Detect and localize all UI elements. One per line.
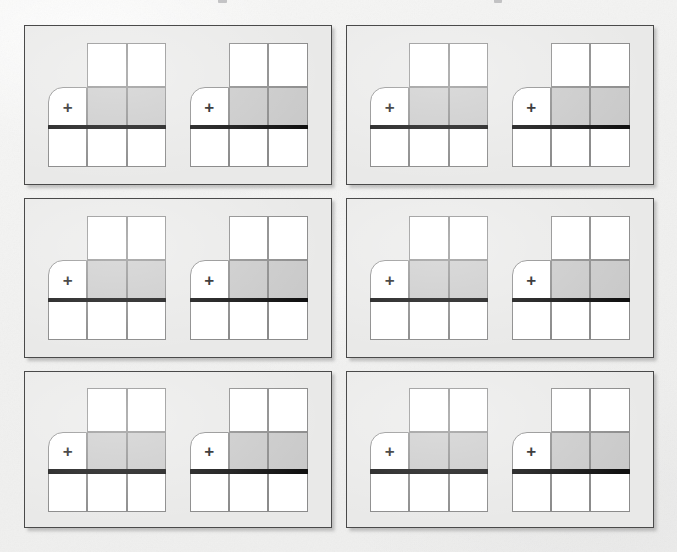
grid-cell-r3c1 xyxy=(512,472,551,512)
plus-icon: + xyxy=(63,98,73,115)
grid-cell-r3c1 xyxy=(190,472,229,512)
grid-cell-r3c2 xyxy=(409,127,449,167)
grid-cell-r2c2 xyxy=(87,260,127,300)
diagram-panel: ++ xyxy=(24,198,332,358)
grid-cell-r3c2 xyxy=(551,127,591,167)
grid-cell-r3c1 xyxy=(48,300,87,340)
baseline-rule xyxy=(370,125,488,130)
grid-cell-r1c2 xyxy=(409,216,449,260)
grid-cell-r2c3 xyxy=(590,87,630,127)
grid-cell-r3c1 xyxy=(190,300,229,340)
grid-cell-r2c2 xyxy=(409,260,449,300)
grid-cell-r3c1 xyxy=(190,127,229,167)
diagram-panel: ++ xyxy=(346,371,654,528)
grid-cell-r1c3 xyxy=(127,216,167,260)
grid-cell-r2c2 xyxy=(229,260,269,300)
grid-cell-r2c3 xyxy=(268,87,308,127)
plus-icon: + xyxy=(204,271,214,288)
grid-cell-r2c2 xyxy=(229,432,269,472)
grid-cell-r2c1: + xyxy=(48,260,87,300)
grid-cell-r2c1: + xyxy=(190,87,229,127)
plus-icon: + xyxy=(204,98,214,115)
grid-cell-r1c2 xyxy=(229,216,269,260)
plus-icon: + xyxy=(204,443,214,460)
plus-icon: + xyxy=(63,271,73,288)
grid-cell-r1c2 xyxy=(229,43,269,87)
grid-cell-r3c3 xyxy=(590,127,630,167)
plus-icon: + xyxy=(526,443,536,460)
baseline-rule xyxy=(190,125,308,130)
baseline-rule xyxy=(190,469,308,474)
grid-cell-r1c2 xyxy=(87,216,127,260)
grid-cell-r2c3 xyxy=(449,260,489,300)
grid-cell-r1c2 xyxy=(551,43,591,87)
grid-cell-r2c3 xyxy=(127,87,167,127)
baseline-rule xyxy=(48,125,166,130)
grid-cell-r2c2 xyxy=(551,87,591,127)
grid-diagram: + xyxy=(512,388,630,512)
grid-cell-r2c1: + xyxy=(48,432,87,472)
grid-cell-r1c3 xyxy=(449,216,489,260)
grid-cell-r2c2 xyxy=(551,260,591,300)
grid-cell-r2c3 xyxy=(449,432,489,472)
grid-cell-r2c1: + xyxy=(370,432,409,472)
plus-icon: + xyxy=(385,271,395,288)
grid-diagram: + xyxy=(190,216,308,340)
grid-cell-r3c3 xyxy=(590,300,630,340)
grid-cell-r2c2 xyxy=(409,432,449,472)
grid-cell-r3c3 xyxy=(127,127,167,167)
grid-cell-r2c1: + xyxy=(512,260,551,300)
grid-cell-r3c2 xyxy=(229,300,269,340)
grid-diagram: + xyxy=(48,388,166,512)
grid-diagram: + xyxy=(190,43,308,167)
grid-cell-r2c1: + xyxy=(512,87,551,127)
grid-cell-r3c2 xyxy=(87,300,127,340)
grid-cell-r3c3 xyxy=(590,472,630,512)
grid-cell-r2c1: + xyxy=(48,87,87,127)
grid-cell-r3c2 xyxy=(229,472,269,512)
grid-cell-r3c1 xyxy=(512,127,551,167)
grid-cell-r2c3 xyxy=(449,87,489,127)
grid-cell-r1c3 xyxy=(268,216,308,260)
grid-cell-r1c3 xyxy=(268,43,308,87)
grid-cell-r1c3 xyxy=(449,43,489,87)
grid-cell-r3c2 xyxy=(409,300,449,340)
grid-cell-r1c3 xyxy=(268,388,308,432)
baseline-rule xyxy=(512,298,630,303)
diagram-panel: ++ xyxy=(346,198,654,358)
grid-cell-r2c1: + xyxy=(512,432,551,472)
grid-cell-r2c1: + xyxy=(370,260,409,300)
grid-cell-r3c3 xyxy=(127,300,167,340)
grid-cell-r3c2 xyxy=(87,127,127,167)
grid-cell-r1c3 xyxy=(127,388,167,432)
grid-cell-r3c1 xyxy=(370,300,409,340)
grid-cell-r2c2 xyxy=(87,432,127,472)
grid-diagram: + xyxy=(48,216,166,340)
plus-icon: + xyxy=(385,443,395,460)
grid-cell-r2c1: + xyxy=(190,260,229,300)
grid-cell-r3c1 xyxy=(48,472,87,512)
grid-cell-r2c3 xyxy=(268,432,308,472)
diagram-panel: ++ xyxy=(346,25,654,185)
grid-diagram: + xyxy=(370,216,488,340)
baseline-rule xyxy=(370,298,488,303)
plus-icon: + xyxy=(526,271,536,288)
grid-cell-r2c2 xyxy=(409,87,449,127)
grid-cell-r1c2 xyxy=(409,43,449,87)
grid-cell-r1c3 xyxy=(590,388,630,432)
grid-cell-r3c2 xyxy=(551,300,591,340)
grid-cell-r3c3 xyxy=(449,300,489,340)
grid-cell-r1c2 xyxy=(87,388,127,432)
grid-cell-r3c2 xyxy=(409,472,449,512)
grid-cell-r1c2 xyxy=(229,388,269,432)
grid-cell-r3c3 xyxy=(127,472,167,512)
grid-cell-r2c3 xyxy=(127,432,167,472)
baseline-rule xyxy=(48,469,166,474)
grid-cell-r2c3 xyxy=(590,432,630,472)
baseline-rule xyxy=(370,469,488,474)
grid-diagram: + xyxy=(190,388,308,512)
grid-cell-r2c2 xyxy=(87,87,127,127)
plus-icon: + xyxy=(385,98,395,115)
grid-cell-r3c3 xyxy=(268,127,308,167)
panel-grid: ++++++++++++ xyxy=(24,25,654,529)
